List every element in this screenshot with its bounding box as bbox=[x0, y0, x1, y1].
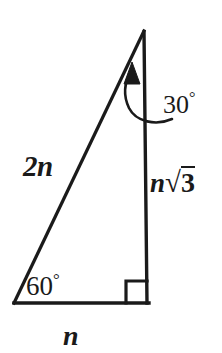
angle-60-value: 60 bbox=[26, 271, 53, 301]
radical-sign-icon: √ bbox=[165, 166, 181, 198]
radical-group: √3 bbox=[165, 166, 195, 197]
degree-symbol-icon: ° bbox=[189, 89, 195, 106]
angle-label-30: 30° bbox=[163, 90, 195, 118]
angle-30-value: 30 bbox=[163, 90, 189, 119]
angle-label-60: 60° bbox=[26, 272, 60, 300]
degree-symbol-icon: ° bbox=[53, 270, 60, 289]
triangle-vertical-side bbox=[144, 32, 147, 303]
vertical-side-length-label: n√3 bbox=[150, 166, 195, 197]
base-length-label: n bbox=[63, 322, 79, 350]
right-angle-marker bbox=[126, 281, 147, 303]
hypotenuse-length-label: 2n bbox=[23, 152, 53, 181]
radicand-value: 3 bbox=[181, 166, 195, 197]
triangle-figure: 2n n√3 n 60° 30° bbox=[0, 0, 222, 353]
vertical-side-coefficient: n bbox=[150, 168, 165, 198]
